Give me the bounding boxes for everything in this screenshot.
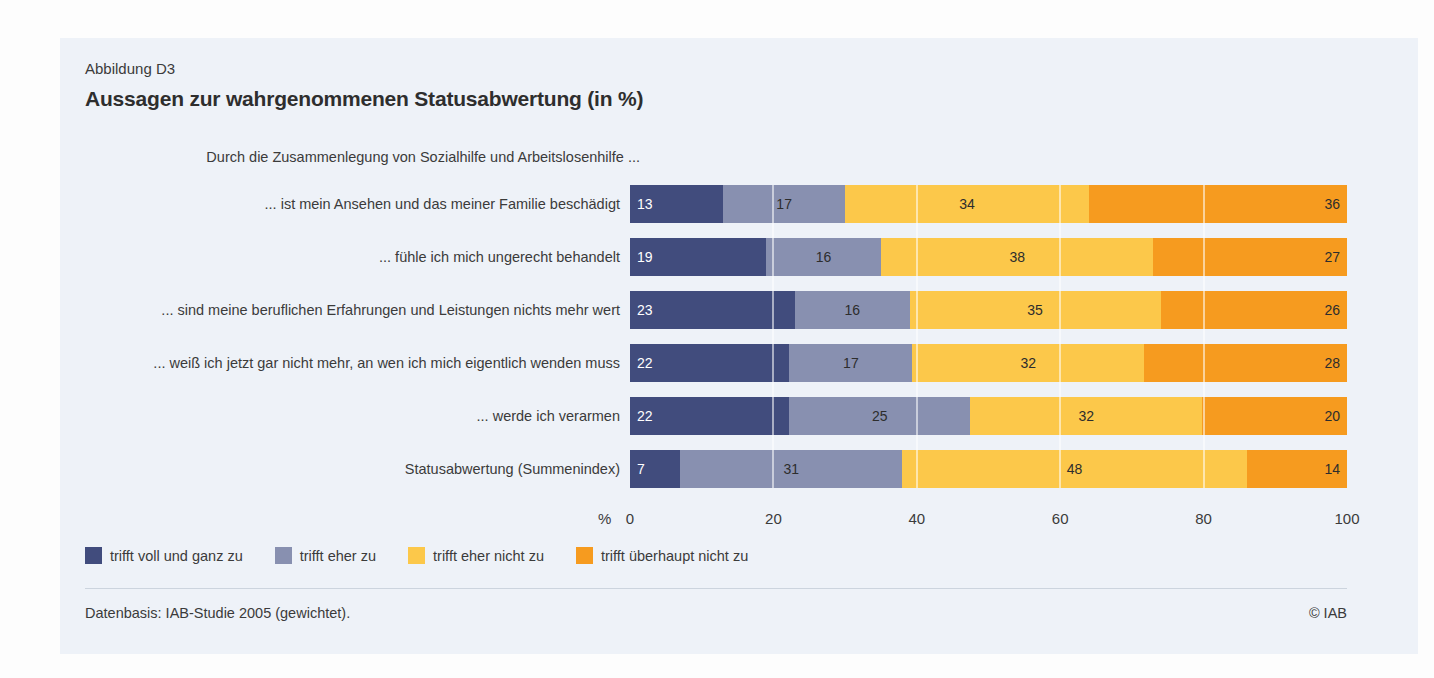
bar-segment: 22 [630, 344, 789, 382]
category-label: ... fühle ich mich ungerecht behandelt [85, 249, 630, 266]
chart-row: Statusabwertung (Summenindex)7314814 [85, 450, 1347, 488]
chart-row: ... ist mein Ansehen und das meiner Fami… [85, 185, 1347, 223]
chart-group-header: Durch die Zusammenlegung von Sozialhilfe… [85, 149, 640, 165]
stacked-bar: 23163526 [630, 291, 1347, 329]
segment-value: 13 [630, 196, 660, 212]
bar-segment: 34 [845, 185, 1089, 223]
bar-segment: 25 [789, 397, 970, 435]
segment-value: 36 [1317, 196, 1347, 212]
segment-value: 17 [769, 196, 799, 212]
stacked-bar: 13173436 [630, 185, 1347, 223]
stacked-bar: 19163827 [630, 238, 1347, 276]
segment-value: 31 [777, 461, 807, 477]
segment-value: 35 [1020, 302, 1050, 318]
segment-value: 19 [630, 249, 660, 265]
bar-segment: 28 [1144, 344, 1347, 382]
bar-segment: 35 [910, 291, 1161, 329]
bar-segment: 19 [630, 238, 766, 276]
page-title: Aussagen zur wahrgenommenen Statusabwert… [85, 87, 1347, 111]
legend-label: trifft voll und ganz zu [110, 548, 243, 564]
segment-value: 38 [1002, 249, 1032, 265]
category-label: ... ist mein Ansehen und das meiner Fami… [85, 196, 630, 213]
source-note: Datenbasis: IAB-Studie 2005 (gewichtet). [85, 605, 350, 621]
bar-segment: 17 [789, 344, 912, 382]
x-axis-tick-label: 20 [765, 510, 782, 527]
legend-item: trifft eher zu [275, 547, 376, 564]
chart-row: ... fühle ich mich ungerecht behandelt19… [85, 238, 1347, 276]
segment-value: 16 [809, 249, 839, 265]
footer-divider [85, 588, 1347, 589]
chart-rows: ... ist mein Ansehen und das meiner Fami… [85, 185, 1347, 488]
bar-segment: 13 [630, 185, 723, 223]
segment-value: 25 [865, 408, 895, 424]
bar-segment: 7 [630, 450, 680, 488]
legend-item: trifft eher nicht zu [408, 547, 544, 564]
bar-segment: 26 [1161, 291, 1347, 329]
legend-item: trifft voll und ganz zu [85, 547, 243, 564]
category-label: ... weiß ich jetzt gar nicht mehr, an we… [85, 355, 630, 372]
stacked-bar-chart: ... ist mein Ansehen und das meiner Fami… [85, 185, 1347, 533]
bar-segment: 23 [630, 291, 795, 329]
bar-segment: 38 [881, 238, 1153, 276]
segment-value: 7 [630, 461, 652, 477]
segment-value: 23 [630, 302, 660, 318]
category-label: Statusabwertung (Summenindex) [85, 461, 630, 478]
segment-value: 16 [837, 302, 867, 318]
x-axis-tick-label: 80 [1195, 510, 1212, 527]
bar-segment: 16 [766, 238, 881, 276]
legend-item: trifft überhaupt nicht zu [576, 547, 748, 564]
chart-row: ... sind meine beruflichen Erfahrungen u… [85, 291, 1347, 329]
legend-swatch [85, 547, 102, 564]
scanned-page-panel: Abbildung D3 Aussagen zur wahrgenommenen… [60, 38, 1418, 654]
segment-value: 48 [1060, 461, 1090, 477]
bar-segment: 16 [795, 291, 910, 329]
category-label: ... werde ich verarmen [85, 408, 630, 425]
chart-row: ... weiß ich jetzt gar nicht mehr, an we… [85, 344, 1347, 382]
bar-segment: 32 [970, 397, 1202, 435]
segment-value: 27 [1317, 249, 1347, 265]
bar-segment: 32 [912, 344, 1144, 382]
segment-value: 34 [952, 196, 982, 212]
bar-segment: 22 [630, 397, 789, 435]
x-axis-tick-label: 100 [1334, 510, 1359, 527]
segment-value: 28 [1317, 355, 1347, 371]
figure-footer: Datenbasis: IAB-Studie 2005 (gewichtet).… [85, 605, 1347, 621]
legend-label: trifft eher zu [300, 548, 376, 564]
bar-segment: 27 [1153, 238, 1347, 276]
segment-value: 22 [630, 355, 660, 371]
chart-row: ... werde ich verarmen22253220 [85, 397, 1347, 435]
x-axis-tick-label: 0 [626, 510, 634, 527]
figure-number: Abbildung D3 [85, 60, 1347, 77]
stacked-bar: 22173228 [630, 344, 1347, 382]
bar-segment: 20 [1202, 397, 1347, 435]
legend-label: trifft eher nicht zu [433, 548, 544, 564]
x-axis-tick-label: 40 [908, 510, 925, 527]
legend-swatch [576, 547, 593, 564]
stacked-bar: 22253220 [630, 397, 1347, 435]
bar-segment: 14 [1247, 450, 1347, 488]
segment-value: 14 [1317, 461, 1347, 477]
category-label: ... sind meine beruflichen Erfahrungen u… [85, 302, 630, 319]
segment-value: 32 [1071, 408, 1101, 424]
legend-label: trifft überhaupt nicht zu [601, 548, 748, 564]
segment-value: 32 [1014, 355, 1044, 371]
figure-container: Abbildung D3 Aussagen zur wahrgenommenen… [60, 38, 1347, 621]
copyright-note: © IAB [1309, 605, 1347, 621]
segment-value: 20 [1317, 408, 1347, 424]
bar-segment: 36 [1089, 185, 1347, 223]
legend: trifft voll und ganz zutrifft eher zutri… [85, 547, 1347, 564]
bar-segment: 17 [723, 185, 845, 223]
segment-value: 22 [630, 408, 660, 424]
x-axis-tick-label: 60 [1052, 510, 1069, 527]
x-axis-unit-label: % [598, 510, 611, 527]
bar-segment: 31 [680, 450, 902, 488]
segment-value: 17 [836, 355, 866, 371]
stacked-bar: 7314814 [630, 450, 1347, 488]
x-axis: % 020406080100 [630, 503, 1347, 533]
segment-value: 26 [1317, 302, 1347, 318]
legend-swatch [408, 547, 425, 564]
bar-segment: 48 [902, 450, 1246, 488]
legend-swatch [275, 547, 292, 564]
